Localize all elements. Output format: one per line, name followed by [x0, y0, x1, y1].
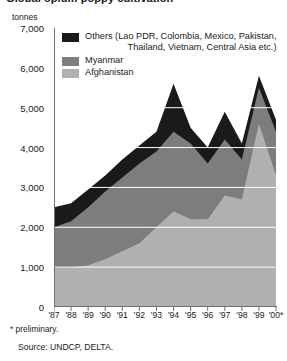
chart-figure: Global opium poppy cultivation tonnes 01… [0, 0, 287, 361]
x-tick-00: '00* [269, 310, 284, 320]
y-tick-2000: 2,000 [4, 222, 44, 233]
legend-item-afghanistan: Afghanistan [62, 67, 284, 78]
y-tick-0: 0 [4, 302, 44, 313]
x-tick-93: '93 [151, 310, 162, 320]
legend-label-others: Others (Lao PDR, Colombia, Mexico, Pakis… [85, 31, 276, 54]
y-axis-unit-label: tonnes [12, 12, 38, 22]
legend-item-others: Others (Lao PDR, Colombia, Mexico, Pakis… [62, 31, 284, 54]
y-tick-4000: 4,000 [4, 142, 44, 153]
y-tick-3000: 3,000 [4, 182, 44, 193]
x-tick-98: '98 [236, 310, 247, 320]
x-tick-96: '96 [202, 310, 213, 320]
x-tick-89: '89 [83, 310, 94, 320]
legend-label-afghanistan: Afghanistan [85, 67, 134, 78]
y-tick-5000: 5,000 [4, 102, 44, 113]
x-tick-97: '97 [219, 310, 230, 320]
footnote-preliminary: * preliminary. [10, 324, 58, 334]
x-tick-92: '92 [134, 310, 145, 320]
y-tick-6000: 6,000 [4, 62, 44, 73]
legend-swatch-afghanistan [62, 69, 79, 78]
chart-title: Global opium poppy cultivation [6, 0, 173, 4]
legend-item-myanmar: Myanmar [62, 55, 284, 66]
x-tick-94: '94 [168, 310, 179, 320]
y-tick-7000: 7,000 [4, 23, 44, 34]
legend-swatch-myanmar [62, 57, 79, 66]
legend-label-myanmar: Myanmar [85, 55, 123, 66]
legend-swatch-others [62, 33, 79, 42]
y-tick-1000: 1,000 [4, 262, 44, 273]
x-tick-88: '88 [65, 310, 76, 320]
x-tick-99: '99 [253, 310, 264, 320]
x-tick-91: '91 [117, 310, 128, 320]
x-tick-90: '90 [100, 310, 111, 320]
source-note: Source: UNDCP, DELTA. [18, 342, 113, 352]
x-tick-95: '95 [185, 310, 196, 320]
x-tick-87: '87 [48, 310, 59, 320]
chart-legend: Others (Lao PDR, Colombia, Mexico, Pakis… [62, 31, 284, 80]
